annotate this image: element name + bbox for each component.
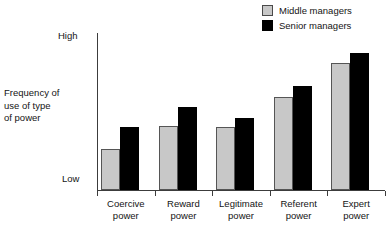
- legend-swatch-icon-middle-managers: [262, 5, 273, 16]
- x-axis-tick: [212, 191, 213, 196]
- chart-legend: Middle managers Senior managers: [262, 4, 352, 31]
- bar-middle-managers-coercive-power: [101, 149, 120, 190]
- bar-middle-managers-expert-power: [331, 63, 350, 190]
- x-axis-line: [97, 190, 385, 191]
- bar-chart: Middle managers Senior managers High Low…: [0, 0, 392, 235]
- bar-middle-managers-referent-power: [274, 97, 293, 190]
- bar-senior-managers-reward-power: [178, 107, 197, 190]
- bar-senior-managers-coercive-power: [120, 127, 139, 190]
- legend-label-middle-managers: Middle managers: [279, 5, 352, 16]
- legend-item-senior-managers: Senior managers: [262, 19, 352, 31]
- plot-area: [97, 33, 385, 190]
- y-axis-tick-low: Low: [62, 173, 79, 184]
- bar-middle-managers-legitimate-power: [216, 127, 235, 190]
- bar-group-coercive-power: [97, 33, 155, 190]
- x-axis-tick: [97, 191, 98, 196]
- y-axis-tick-high: High: [58, 30, 78, 41]
- x-axis-tick: [385, 191, 386, 196]
- bar-group-reward-power: [155, 33, 213, 190]
- x-axis-label-expert-power: Expert power: [321, 198, 391, 222]
- x-axis-tick: [270, 191, 271, 196]
- bar-group-expert-power: [327, 33, 385, 190]
- legend-label-senior-managers: Senior managers: [279, 20, 351, 31]
- x-axis-tick: [155, 191, 156, 196]
- bar-middle-managers-reward-power: [159, 126, 178, 190]
- bar-senior-managers-referent-power: [293, 86, 312, 190]
- bar-group-referent-power: [270, 33, 328, 190]
- bar-group-legitimate-power: [212, 33, 270, 190]
- legend-item-middle-managers: Middle managers: [262, 4, 352, 16]
- y-axis-title: Frequency of use of type of power: [4, 87, 59, 125]
- legend-swatch-icon-senior-managers: [262, 20, 273, 31]
- bar-senior-managers-expert-power: [350, 53, 369, 190]
- bar-senior-managers-legitimate-power: [235, 118, 254, 190]
- x-axis-tick: [327, 191, 328, 196]
